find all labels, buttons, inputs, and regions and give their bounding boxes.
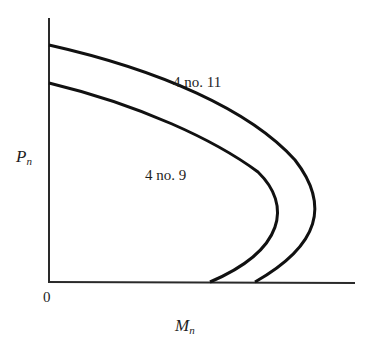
x-axis-label: Mn <box>175 317 195 336</box>
x-axis-label-sub: n <box>189 324 195 336</box>
origin-label: 0 <box>43 290 51 305</box>
interaction-diagram: 4 no. 11 4 no. 9 Pn 0 Mn <box>0 0 370 357</box>
x-axis-label-main: M <box>175 316 189 335</box>
y-axis-label-main: P <box>16 147 26 166</box>
curve-label-4-no-11: 4 no. 11 <box>173 75 221 90</box>
y-axis-label-sub: n <box>26 155 32 167</box>
x-axis <box>48 282 355 283</box>
curve-label-4-no-9: 4 no. 9 <box>145 168 186 183</box>
y-axis-label: Pn <box>16 148 32 167</box>
